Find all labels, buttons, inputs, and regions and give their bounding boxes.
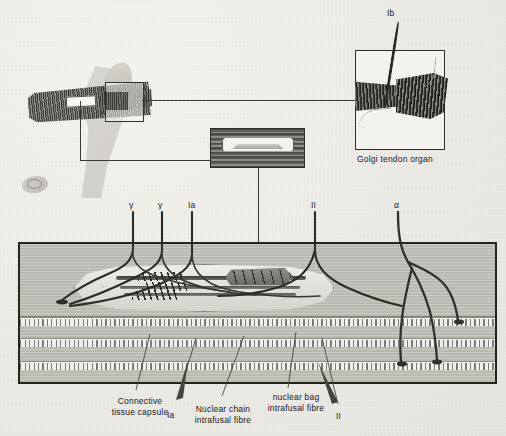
nuclear-bag-region bbox=[225, 268, 293, 286]
label-ia-bottom: Ia bbox=[167, 410, 175, 421]
leader-spindle-drop bbox=[80, 101, 81, 160]
figure-page: Ib Golgi tendon organ γ γ Ia II α bbox=[0, 0, 506, 436]
tendon-fibres bbox=[106, 92, 128, 110]
leader-inset-to-panel bbox=[258, 166, 259, 242]
annulospiral-ending-1 bbox=[138, 272, 182, 281]
label-connective-tissue-capsule: Connective tissue capsule bbox=[103, 396, 177, 417]
ib-label: Ib bbox=[387, 8, 395, 19]
label-ia-top: Ia bbox=[188, 200, 196, 211]
label-ii-top: II bbox=[311, 200, 316, 211]
tendon-organ-site-box bbox=[105, 82, 144, 122]
spindle-inset-box bbox=[210, 128, 305, 168]
annulospiral-ending-2 bbox=[142, 282, 188, 291]
spindle-inset-capsule bbox=[222, 136, 294, 153]
label-ii-bottom: II bbox=[336, 411, 341, 422]
label-nuclear-bag-intrafusal-fibre: nuclear bag intrafusal fibre bbox=[258, 392, 334, 413]
limb-foot bbox=[22, 176, 48, 193]
leader-into-golgi bbox=[303, 100, 355, 101]
golgi-caption: Golgi tendon organ bbox=[357, 154, 433, 165]
muscle-spindle-detail-panel bbox=[18, 242, 497, 384]
label-nuclear-chain-intrafusal-fibre: Nuclear chain intrafusal fibre bbox=[183, 404, 263, 425]
flower-spray-ending bbox=[132, 291, 180, 300]
label-gamma-1: γ bbox=[129, 200, 133, 211]
capsule-outline-lower bbox=[357, 108, 393, 145]
extrafusal-muscle-lower bbox=[20, 370, 495, 382]
label-alpha-top: α bbox=[394, 200, 399, 211]
leader-spindle-to-inset bbox=[80, 160, 210, 161]
extrafusal-muscle-mid-2 bbox=[20, 347, 495, 361]
label-gamma-2: γ bbox=[158, 200, 162, 211]
golgi-inset-box bbox=[355, 50, 445, 150]
muscle-spindle-site-marker bbox=[66, 95, 97, 108]
extrafusal-muscle-mid-1 bbox=[20, 326, 495, 338]
